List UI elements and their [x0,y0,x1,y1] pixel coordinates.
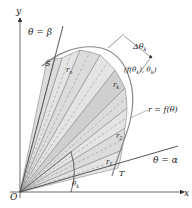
polar-area-diagram: y x O θ = β θ = α S T rn rk r2 r1 Δθk (f… [0,0,192,208]
y-axis-label: y [15,6,22,16]
point-coordinate-label: (f(θk), θk) [124,66,157,75]
point-t-label: T [119,169,125,178]
theta-beta-label: θ = β [28,27,52,37]
delta-theta-label: Δθk [132,42,147,52]
sectors [20,50,127,192]
curve-label: r = f(θ) [148,105,178,114]
origin-label: O [10,192,18,202]
theta-alpha-label: θ = α [153,155,178,165]
theta-k-label: θk [72,180,79,189]
x-axis-label: x [184,188,189,198]
point-s-label: S [45,59,51,68]
delta-theta-tick-1 [108,34,124,48]
